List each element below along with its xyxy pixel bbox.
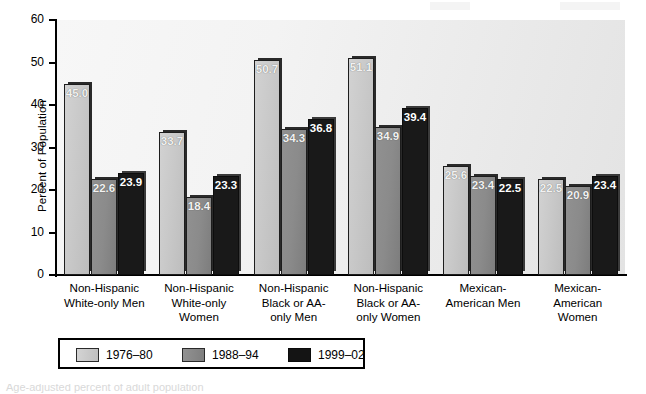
x-axis-category-label: Mexican-AmericanWomen xyxy=(530,281,625,325)
bar-value-label: 23.3 xyxy=(214,179,238,191)
y-axis-tick-label: 40 xyxy=(4,98,44,110)
bar-value-label: 34.9 xyxy=(376,130,400,142)
x-axis-category-label-line: Mexican- xyxy=(436,281,531,296)
y-axis-tick xyxy=(49,274,57,276)
light-gray-swatch xyxy=(76,348,99,362)
y-axis-tick-label: 20 xyxy=(4,183,44,195)
bar: 34.9 xyxy=(375,127,401,275)
bar: 34.3 xyxy=(281,129,307,275)
bar: 45.0 xyxy=(64,84,90,275)
bar-value-label: 20.9 xyxy=(566,189,590,201)
bar: 20.9 xyxy=(565,186,591,275)
bar: 23.4 xyxy=(470,176,496,275)
bar: 36.8 xyxy=(308,119,334,275)
y-axis-title: Percent of Population xyxy=(36,36,48,276)
x-axis-category-label-line: American Men xyxy=(436,296,531,311)
scan-artifact xyxy=(430,2,470,10)
bar-value-label: 33.7 xyxy=(160,135,184,147)
y-axis-tick xyxy=(49,104,57,106)
x-axis-category-label: Mexican-American Men xyxy=(436,281,531,310)
x-axis-category-label: Non-HispanicWhite-onlyWomen xyxy=(152,281,247,325)
legend-item: 1999–02 xyxy=(288,346,365,363)
bar-value-label: 23.4 xyxy=(471,179,495,191)
x-axis-category-label-line: Non-Hispanic xyxy=(57,281,152,296)
x-axis-category-label-line: White-only Men xyxy=(57,296,152,311)
x-axis-category-label-line: Black or AA- xyxy=(341,296,436,311)
legend-item: 1988–94 xyxy=(182,346,259,363)
y-axis-tick xyxy=(49,19,57,21)
bar: 22.6 xyxy=(91,179,117,275)
y-axis-tick-label: 0 xyxy=(4,268,44,280)
x-axis-category-label: Non-HispanicBlack or AA-only Women xyxy=(341,281,436,325)
legend-label: 1976–80 xyxy=(106,348,153,362)
bar-value-label: 23.9 xyxy=(119,176,143,188)
bar-value-label: 23.4 xyxy=(593,179,617,191)
scan-artifact xyxy=(560,2,620,10)
y-axis-tick xyxy=(49,232,57,234)
bar-value-label: 51.1 xyxy=(349,61,373,73)
x-axis-category-label-line: Women xyxy=(152,310,247,325)
x-axis-category-label-line: White-only xyxy=(152,296,247,311)
bar: 33.7 xyxy=(159,132,185,275)
bar-value-label: 45.0 xyxy=(65,87,89,99)
y-axis-tick xyxy=(49,147,57,149)
bar-value-label: 18.4 xyxy=(187,200,211,212)
bar-chart-figure: Percent of Population 0102030405060 45.0… xyxy=(0,0,646,394)
legend-item: 1976–80 xyxy=(76,346,153,363)
legend-label: 1999–02 xyxy=(318,348,365,362)
bar: 23.3 xyxy=(213,176,239,275)
black-swatch xyxy=(288,348,311,362)
x-axis-category-label-line: Women xyxy=(530,310,625,325)
x-axis-category-label-line: Black or AA- xyxy=(246,296,341,311)
x-axis-category-label-line: Mexican- xyxy=(530,281,625,296)
x-axis-category-label-line: American xyxy=(530,296,625,311)
y-axis-tick-label: 30 xyxy=(4,141,44,153)
bar: 50.7 xyxy=(254,60,280,275)
y-axis-tick xyxy=(49,62,57,64)
figure-caption-strip: Age-adjusted percent of adult population xyxy=(0,384,646,394)
bar: 18.4 xyxy=(186,197,212,275)
bar: 23.4 xyxy=(592,176,618,275)
medium-gray-swatch xyxy=(182,348,205,362)
x-axis-category-label: Non-HispanicBlack or AA-only Men xyxy=(246,281,341,325)
bar-value-label: 36.8 xyxy=(309,122,333,134)
bar: 39.4 xyxy=(402,108,428,275)
bar: 23.9 xyxy=(118,173,144,275)
bar-value-label: 22.5 xyxy=(539,182,563,194)
bar-value-label: 34.3 xyxy=(282,132,306,144)
bar: 25.6 xyxy=(443,166,469,275)
bar-value-label: 50.7 xyxy=(255,63,279,75)
bar: 22.5 xyxy=(497,179,523,275)
bar-value-label: 22.5 xyxy=(498,182,522,194)
figure-caption: Age-adjusted percent of adult population xyxy=(6,384,204,393)
bar: 22.5 xyxy=(538,179,564,275)
bar-value-label: 39.4 xyxy=(403,111,427,123)
legend-label: 1988–94 xyxy=(212,348,259,362)
x-axis-category-label-line: Non-Hispanic xyxy=(341,281,436,296)
x-axis-category-label-line: only Men xyxy=(246,310,341,325)
bar: 51.1 xyxy=(348,58,374,275)
x-axis-category-label-line: only Women xyxy=(341,310,436,325)
x-axis-category-label-line: Non-Hispanic xyxy=(246,281,341,296)
y-axis-tick-label: 50 xyxy=(4,56,44,68)
x-axis-category-label-line: Non-Hispanic xyxy=(152,281,247,296)
y-axis-tick xyxy=(49,189,57,191)
y-axis-tick-label: 60 xyxy=(4,13,44,25)
y-axis-tick-label: 10 xyxy=(4,226,44,238)
legend: 1976–801988–941999–02 xyxy=(58,338,365,369)
bar-value-label: 25.6 xyxy=(444,169,468,181)
bar-value-label: 22.6 xyxy=(92,182,116,194)
x-axis-category-label: Non-HispanicWhite-only Men xyxy=(57,281,152,310)
